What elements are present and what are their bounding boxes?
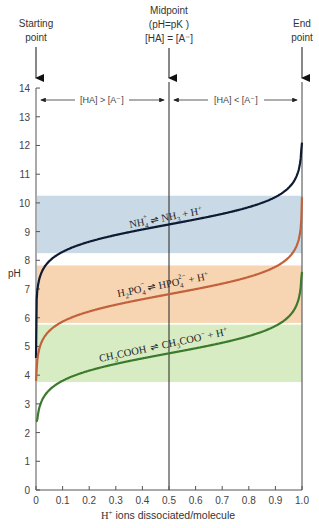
y-axis-label: pH [8, 268, 21, 279]
midpoint-annotation: Midpoint (pH=pK ) [HA] = [A⁻] [145, 5, 193, 78]
region-right: [HA] < [A⁻] [174, 95, 297, 105]
y-tick-label: 9 [24, 227, 30, 238]
y-tick-label: 6 [24, 313, 30, 324]
svg-text:[HA] > [A⁻]: [HA] > [A⁻] [80, 95, 124, 105]
svg-text:point: point [25, 32, 47, 43]
y-tick-label: 14 [19, 83, 31, 94]
y-tick-label: 3 [24, 399, 30, 410]
y-tick-label: 8 [24, 255, 30, 266]
x-tick-label: 0.7 [215, 495, 229, 506]
y-tick-label: 2 [24, 428, 30, 439]
x-tick-label: 0.3 [109, 495, 123, 506]
svg-text:[HA] < [A⁻]: [HA] < [A⁻] [214, 95, 258, 105]
y-tick-label: 1 [24, 456, 30, 467]
x-tick-label: 0.4 [135, 495, 149, 506]
y-tick-label: 12 [19, 140, 31, 151]
y-tick-label: 4 [24, 370, 30, 381]
x-tick-label: 0.2 [82, 495, 96, 506]
y-tick-label: 10 [19, 198, 31, 209]
x-tick-label: 0.6 [189, 495, 203, 506]
y-tick-label: 11 [20, 169, 31, 180]
start-annotation: Starting point [19, 18, 53, 78]
svg-text:point: point [291, 32, 313, 43]
y-tick-label: 0 [24, 485, 30, 496]
x-axis-label: H+ ions dissociated/molecule [101, 509, 235, 521]
x-tick-label: 0.1 [56, 495, 70, 506]
titration-chart: 01234567891011121314 00.10.20.30.40.50.6… [0, 0, 319, 528]
svg-text:(pH=pK ): (pH=pK ) [149, 19, 189, 30]
x-ticks: 00.10.20.30.40.50.60.70.80.91.0 [33, 486, 309, 506]
y-tick-label: 13 [19, 112, 31, 123]
end-annotation: End point [291, 18, 313, 78]
svg-text:Starting: Starting [19, 18, 53, 29]
x-tick-label: 0 [33, 495, 39, 506]
svg-text:[HA] = [A⁻]: [HA] = [A⁻] [145, 33, 193, 44]
x-tick-label: 1.0 [295, 495, 309, 506]
y-tick-label: 7 [24, 284, 30, 295]
svg-text:Midpoint: Midpoint [150, 5, 188, 16]
region-left: [HA] > [A⁻] [41, 95, 164, 105]
x-tick-label: 0.9 [268, 495, 282, 506]
y-tick-label: 5 [24, 341, 30, 352]
x-tick-label: 0.8 [242, 495, 256, 506]
x-tick-label: 0.5 [162, 495, 176, 506]
svg-text:End: End [293, 18, 311, 29]
